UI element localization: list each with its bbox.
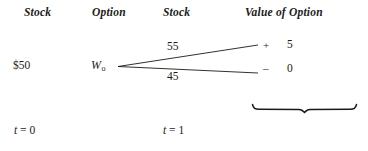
branch-up-stock-value: 55: [167, 40, 179, 52]
time-label-t1-value: = 1: [166, 124, 184, 136]
branch-down-stock-value: 45: [167, 70, 179, 82]
time-label-t1: t = 1: [163, 124, 184, 136]
branch-line-down: [118, 67, 258, 74]
time-label-t0: t = 0: [14, 124, 35, 136]
branch-up-option-value: 5: [287, 38, 293, 50]
time-label-t0-value: = 0: [17, 124, 35, 136]
payoff-grouping-brace: [253, 105, 357, 113]
binomial-tree-figure: Stock Option Stock Value of Option $50 W…: [0, 0, 368, 151]
branch-down-option-value: 0: [287, 62, 293, 74]
branch-line-up: [118, 45, 258, 67]
branch-down-sign: –: [263, 62, 269, 74]
branch-up-sign: +: [263, 39, 269, 51]
